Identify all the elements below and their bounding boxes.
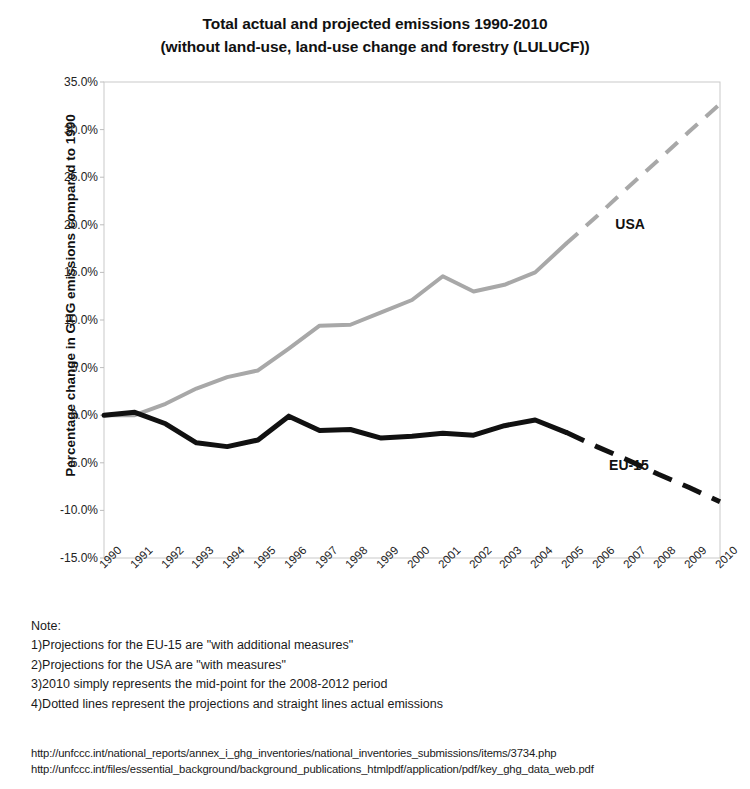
notes-block: Note: 1)Projections for the EU-15 are "w… (31, 617, 721, 714)
plot-canvas (0, 66, 750, 566)
title-line-2: (without land-use, land-use change and f… (0, 35, 750, 58)
chart-page: Total actual and projected emissions 199… (0, 0, 750, 789)
note-item: 4)Dotted lines represent the projections… (31, 695, 721, 715)
x-axis-ticks: 1990199119921993199419951996199719981999… (0, 562, 750, 622)
chart-area: Percentage change in GHG emissions compa… (0, 66, 750, 626)
note-item: 1)Projections for the EU-15 are "with ad… (31, 636, 721, 656)
note-item: 3)2010 simply represents the mid-point f… (31, 675, 721, 695)
title-line-1: Total actual and projected emissions 199… (0, 12, 750, 35)
source-links: http://unfccc.int/national_reports/annex… (31, 745, 750, 777)
source-list: http://unfccc.int/national_reports/annex… (31, 745, 750, 777)
notes-list: 1)Projections for the EU-15 are "with ad… (31, 636, 721, 714)
notes-heading: Note: (31, 617, 721, 636)
source-url[interactable]: http://unfccc.int/national_reports/annex… (31, 745, 750, 761)
chart-title: Total actual and projected emissions 199… (0, 12, 750, 58)
note-item: 2)Projections for the USA are "with meas… (31, 656, 721, 676)
source-url[interactable]: http://unfccc.int/files/essential_backgr… (31, 761, 750, 777)
plot-frame (104, 82, 720, 558)
series-label-usa: USA (615, 216, 645, 232)
series-label-eu-15: EU-15 (609, 457, 649, 473)
